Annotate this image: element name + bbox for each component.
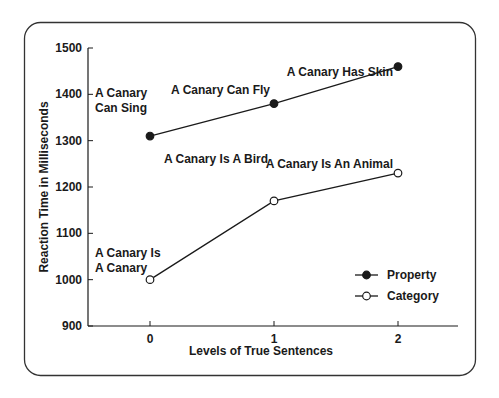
y-tick-label: 900 [62,319,82,333]
open-circle-marker [394,169,402,177]
x-tick-label: 0 [147,332,154,346]
point-label: Can Sing [95,101,147,115]
y-tick-label: 1500 [55,41,82,55]
x-tick-label: 2 [395,332,402,346]
open-circle-icon [363,292,371,300]
filled-circle-icon [363,271,371,279]
legend-item-property: Property [355,268,437,282]
chart-canvas: 900100011001200130014001500012 A CanaryC… [0,0,499,398]
series-property: A CanaryCan SingA Canary Can FlyA Canary… [95,63,402,140]
point-label: A Canary [95,86,148,100]
open-circle-marker [146,276,154,284]
filled-circle-marker [146,132,154,140]
y-axis-label: Reaction Time in Milliseconds [37,101,51,272]
series-line [150,173,398,280]
y-tick-label: 1200 [55,180,82,194]
point-label: A Canary Is A Bird [164,152,268,166]
point-label: A Canary [95,261,148,275]
series-layer: A CanaryCan SingA Canary Can FlyA Canary… [95,63,402,284]
filled-circle-marker [394,63,402,71]
point-label: A Canary Has Skin [287,65,393,79]
x-axis-label: Levels of True Sentences [189,344,333,358]
y-tick-label: 1000 [55,273,82,287]
point-label: A Canary Can Fly [171,83,270,97]
series-category: A Canary IsA CanaryA Canary Is A BirdA C… [95,152,402,283]
legend-label: Category [387,289,439,303]
chart-frame [25,23,476,376]
point-label: A Canary Is An Animal [266,157,393,171]
y-tick-label: 1100 [56,226,82,240]
legend-label: Property [387,268,437,282]
legend-item-category: Category [355,289,439,303]
point-label: A Canary Is [95,246,161,260]
filled-circle-marker [270,100,278,108]
legend: PropertyCategory [355,268,439,303]
y-tick-label: 1400 [55,87,82,101]
open-circle-marker [270,197,278,205]
y-tick-label: 1300 [55,134,82,148]
